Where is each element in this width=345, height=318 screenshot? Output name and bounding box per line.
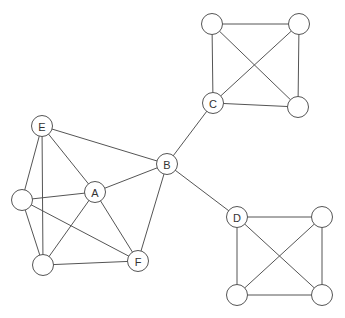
node-circle <box>288 97 309 118</box>
edge-l1-f <box>22 200 138 261</box>
node-d1 <box>312 207 333 228</box>
node-label: C <box>209 98 217 110</box>
node-b: B <box>157 154 178 175</box>
node-c: C <box>203 93 224 114</box>
edge-c3-c <box>213 103 298 107</box>
node-circle <box>289 14 310 35</box>
edge-b-d <box>167 164 237 217</box>
node-l1 <box>12 190 33 211</box>
node-label: F <box>135 256 142 268</box>
node-label: A <box>91 187 99 199</box>
node-circle <box>33 255 54 276</box>
node-label: D <box>233 212 241 224</box>
node-circle <box>227 285 248 306</box>
node-circle <box>312 207 333 228</box>
edge-e-l2 <box>42 126 43 265</box>
edge-l2-f <box>43 261 138 265</box>
edge-e-b <box>42 126 167 164</box>
node-c1 <box>202 14 223 35</box>
edge-l1-a <box>22 192 95 200</box>
node-label: E <box>38 121 45 133</box>
network-graph: EAFBCD <box>0 0 345 318</box>
node-d3 <box>312 285 333 306</box>
node-circle <box>312 285 333 306</box>
edge-c2-c3 <box>298 24 299 107</box>
node-c2 <box>289 14 310 35</box>
edge-l2-a <box>43 192 95 265</box>
node-label: B <box>163 159 170 171</box>
edge-c-c2 <box>213 24 299 103</box>
node-e: E <box>32 116 53 137</box>
edge-b-f <box>138 164 167 261</box>
node-d: D <box>227 207 248 228</box>
edge-b-c <box>167 103 213 164</box>
node-a: A <box>85 182 106 203</box>
edge-c-c1 <box>212 24 213 103</box>
edge-e-l1 <box>22 126 42 200</box>
node-c3 <box>288 97 309 118</box>
graph-nodes: EAFBCD <box>12 14 333 306</box>
edge-a-f <box>95 192 138 261</box>
node-f: F <box>128 251 149 272</box>
node-l2 <box>33 255 54 276</box>
edge-a-b <box>95 164 167 192</box>
node-circle <box>202 14 223 35</box>
node-d2 <box>227 285 248 306</box>
node-circle <box>12 190 33 211</box>
edge-e-a <box>42 126 95 192</box>
